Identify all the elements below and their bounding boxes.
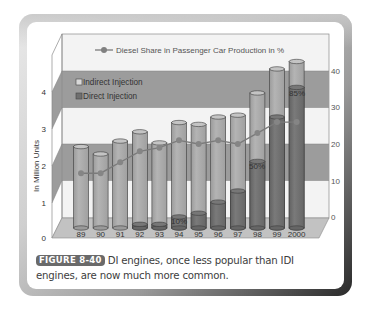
bar-top-90 <box>93 152 108 156</box>
bar-2000 <box>289 59 304 230</box>
left-axis-label: In Million Units <box>32 140 41 192</box>
legend-direct-label: Direct Injection <box>83 92 138 101</box>
category-label-96: 96 <box>214 230 223 239</box>
bar-direct-98 <box>250 161 265 228</box>
bar-top-94 <box>172 120 187 124</box>
share-point-97 <box>235 141 241 147</box>
share-point-98 <box>254 130 260 136</box>
category-label-97: 97 <box>233 230 242 239</box>
bar-top-96 <box>211 115 226 119</box>
bar-direct-2000 <box>289 87 304 228</box>
figure-caption: FIGURE 8-40DI engines, once less popular… <box>36 253 336 283</box>
legend-swatch-direct <box>76 93 82 99</box>
share-point-93 <box>156 145 162 151</box>
bar-top-99 <box>270 67 285 71</box>
share-point-89 <box>78 170 84 176</box>
bar-95 <box>191 122 206 230</box>
bar-top-98 <box>250 91 265 95</box>
bar-direct-96 <box>211 202 226 228</box>
category-label-90: 90 <box>96 230 105 239</box>
line-legend-label: Diesel Share in Passenger Car Production… <box>116 46 284 55</box>
category-label-99: 99 <box>273 230 282 239</box>
left-tick-2: 2 <box>42 162 47 171</box>
share-point-90 <box>98 170 104 176</box>
right-tick-30: 30 <box>331 103 340 112</box>
chart-side-wall <box>52 34 62 238</box>
figure-label: FIGURE 8-40 <box>36 255 105 266</box>
bar-93 <box>152 141 167 231</box>
right-axis: 0 10 20 30 40 <box>331 67 340 222</box>
category-label-92: 92 <box>135 230 144 239</box>
category-label-98: 98 <box>253 230 262 239</box>
bar-90 <box>93 152 108 230</box>
right-tick-10: 10 <box>331 177 340 186</box>
bar-97 <box>230 113 245 230</box>
bar-98 <box>250 91 265 230</box>
annotation-94: 10% <box>171 217 187 226</box>
category-label-89: 89 <box>77 230 86 239</box>
category-label-95: 95 <box>194 230 203 239</box>
bar-91 <box>113 139 128 230</box>
bar-92 <box>132 130 147 231</box>
bar-top-89 <box>74 144 89 148</box>
annotation-2000: 85% <box>289 89 305 98</box>
share-point-94 <box>176 137 182 143</box>
share-point-95 <box>196 141 202 147</box>
bar-top-97 <box>230 113 245 117</box>
legend-indirect-label: Indirect Injection <box>83 78 143 87</box>
bar-96 <box>211 115 226 230</box>
right-tick-40: 40 <box>331 67 340 76</box>
share-point-92 <box>137 148 143 154</box>
legend-swatch-indirect <box>76 79 82 85</box>
bar-top-2000 <box>289 59 304 63</box>
category-label-94: 94 <box>175 230 184 239</box>
category-label-2000: 2000 <box>288 230 306 239</box>
right-tick-20: 20 <box>331 140 340 149</box>
bar-direct-97 <box>230 191 245 228</box>
bar-89 <box>74 144 89 230</box>
bar-99 <box>270 67 285 231</box>
right-tick-0: 0 <box>331 213 336 222</box>
left-tick-1: 1 <box>42 199 47 208</box>
annotation-98: 50% <box>249 162 265 171</box>
share-point-96 <box>215 137 221 143</box>
category-label-93: 93 <box>155 230 164 239</box>
share-point-99 <box>274 119 280 125</box>
left-tick-4: 4 <box>42 88 47 97</box>
bar-top-93 <box>152 141 167 145</box>
bar-top-95 <box>191 122 206 126</box>
bar-94 <box>172 120 187 230</box>
bar-top-92 <box>132 130 147 134</box>
line-legend: Diesel Share in Passenger Car Production… <box>95 46 284 55</box>
left-tick-0: 0 <box>42 234 47 243</box>
left-tick-3: 3 <box>42 125 47 134</box>
share-point-2000 <box>294 119 300 125</box>
left-axis: 0 1 2 3 4 In Million Units <box>32 88 47 243</box>
bar-top-91 <box>113 139 128 143</box>
share-point-91 <box>117 159 123 165</box>
bar-direct-99 <box>270 117 285 228</box>
category-label-91: 91 <box>116 230 125 239</box>
